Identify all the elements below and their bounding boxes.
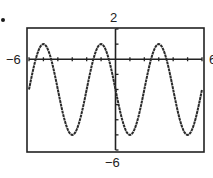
graph-plot	[0, 0, 213, 178]
